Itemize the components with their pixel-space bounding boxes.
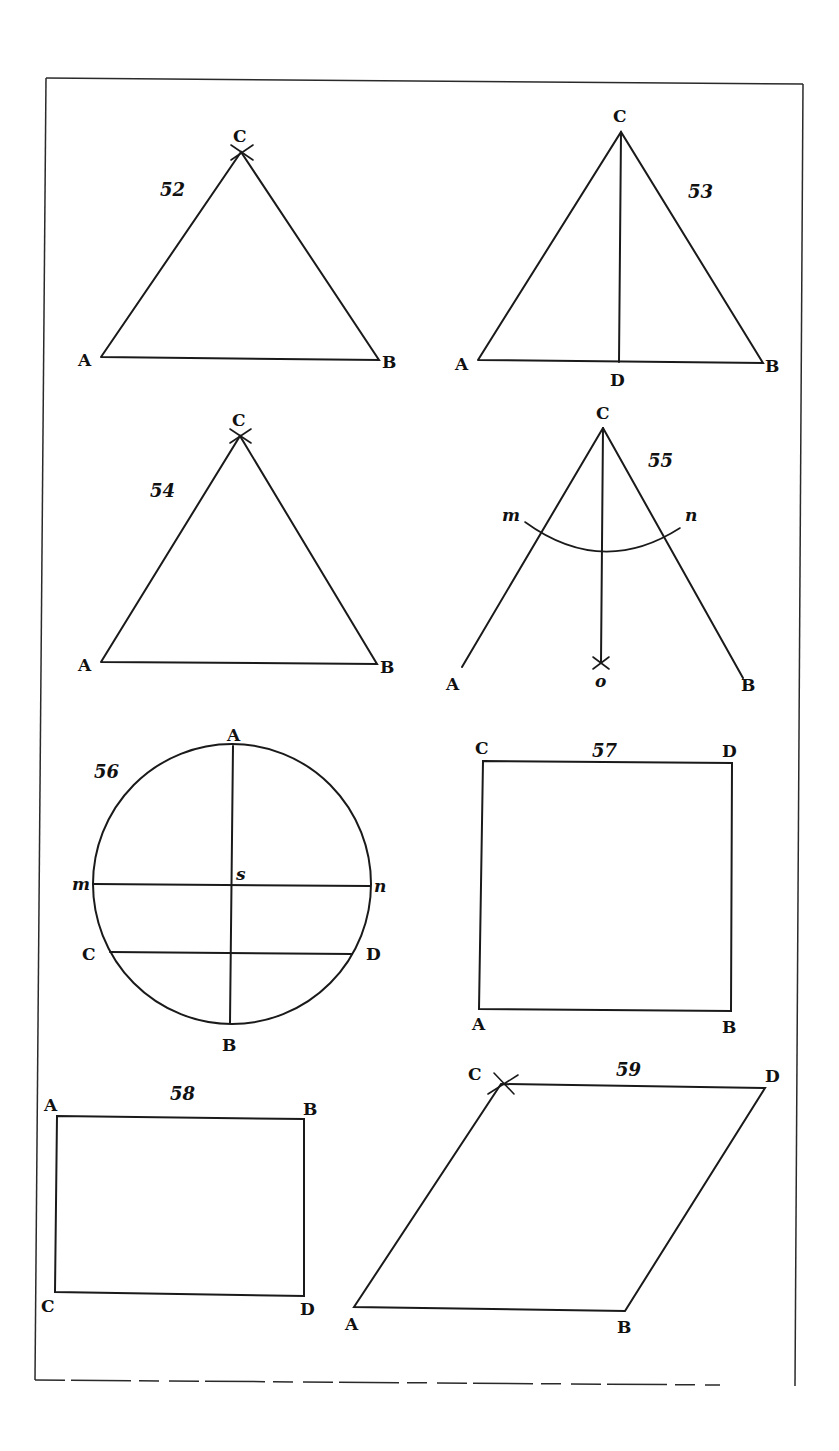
- point-label-d: D: [366, 944, 381, 964]
- vertex-label-c: C: [613, 106, 627, 126]
- figure-55: 55 A B C m n o: [445, 403, 755, 695]
- vertex-label-c: C: [41, 1296, 55, 1316]
- point-label-c: C: [82, 944, 96, 964]
- vertex-label-a: A: [77, 350, 92, 370]
- figure-number: 58: [170, 1083, 196, 1104]
- point-label-b: B: [222, 1035, 236, 1055]
- figure-number: 53: [688, 181, 713, 202]
- vertex-label-a: A: [77, 655, 92, 675]
- vertex-label-b: B: [303, 1099, 317, 1119]
- figure-number: 52: [160, 179, 185, 200]
- figure-58: 58 A B C D: [41, 1083, 317, 1319]
- vertex-label-d: D: [300, 1299, 315, 1319]
- geometry-plate: 52 A B C 53 A B C D 54 A B C 55 A B C m …: [0, 0, 839, 1451]
- vertex-label-c: C: [233, 126, 247, 146]
- point-label-a: A: [226, 725, 241, 745]
- vertex-label-b: B: [380, 657, 394, 677]
- vertex-label-d: D: [722, 741, 737, 761]
- figure-number: 59: [616, 1059, 642, 1080]
- vertex-label-d: D: [610, 370, 625, 390]
- figure-59: 59 A B C D: [344, 1059, 780, 1337]
- plate-frame: [35, 78, 803, 1386]
- vertex-label-a: A: [344, 1314, 359, 1334]
- vertex-label-a: A: [454, 354, 469, 374]
- vertex-label-d: D: [765, 1066, 780, 1086]
- point-label-n: n: [374, 876, 386, 896]
- figure-number: 56: [94, 761, 120, 782]
- vertex-label-a: A: [471, 1014, 486, 1034]
- vertex-label-b: B: [765, 356, 779, 376]
- figure-number: 57: [592, 740, 618, 761]
- figure-57: 57 A B C D: [471, 738, 737, 1037]
- vertex-label-b: B: [722, 1017, 736, 1037]
- figure-52: 52 A B C: [77, 126, 396, 372]
- figure-56: 56 A B C D m n s: [72, 725, 386, 1055]
- figure-number: 55: [648, 450, 673, 471]
- figure-54: 54 A B C: [77, 410, 394, 677]
- vertex-label-a: A: [445, 674, 460, 694]
- vertex-label-c: C: [232, 410, 246, 430]
- figure-number: 54: [150, 480, 175, 501]
- point-label-m: m: [502, 505, 520, 525]
- figure-53: 53 A B C D: [454, 106, 779, 390]
- vertex-label-c: C: [596, 403, 610, 423]
- point-label-o: o: [595, 671, 606, 691]
- point-label-m: m: [72, 874, 90, 894]
- point-label-n: n: [685, 505, 697, 525]
- point-label-s: s: [235, 864, 246, 884]
- vertex-label-a: A: [43, 1095, 58, 1115]
- vertex-label-b: B: [741, 675, 755, 695]
- vertex-label-b: B: [617, 1317, 631, 1337]
- vertex-label-c: C: [468, 1064, 482, 1084]
- vertex-label-c: C: [475, 738, 489, 758]
- vertex-label-b: B: [382, 352, 396, 372]
